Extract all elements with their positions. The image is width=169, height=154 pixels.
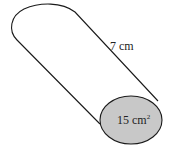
base-area-value: 15 cm [117,113,147,127]
base-area-exponent: 2 [147,113,151,121]
base-area-label: 15 cm2 [117,113,151,127]
length-label: 7 cm [110,39,134,53]
cylinder-diagram: 7 cm 15 cm2 [0,0,169,154]
